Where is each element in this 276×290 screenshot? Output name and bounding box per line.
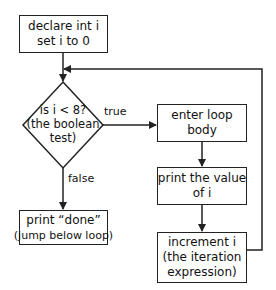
- increment-line1: increment i: [168, 235, 236, 250]
- decision-text: is i < 8? (the boolean test): [23, 103, 103, 145]
- body-line1: enter loop: [171, 108, 232, 123]
- done-line1: print “done”: [26, 213, 100, 228]
- increment-line2: (the iteration: [163, 250, 242, 265]
- test-line1: is i < 8?: [23, 103, 103, 117]
- increment-box: increment i (the iteration expression): [157, 232, 247, 283]
- print-value-line2: of i: [193, 186, 212, 201]
- test-line3: test): [23, 131, 103, 145]
- done-box: print “done” (jump below loop): [19, 210, 108, 245]
- test-line2: (the boolean: [23, 117, 103, 131]
- done-line2: (jump below loop): [14, 228, 113, 243]
- label-true: true: [104, 105, 127, 118]
- print-value-box: print the value of i: [157, 167, 247, 205]
- init-line1: declare int i: [28, 19, 99, 34]
- body-box: enter loop body: [157, 104, 247, 142]
- increment-line3: expression): [167, 265, 236, 280]
- print-value-line1: print the value: [158, 171, 246, 186]
- init-box: declare int i set i to 0: [19, 15, 108, 53]
- init-line2: set i to 0: [37, 34, 90, 49]
- label-false: false: [68, 172, 94, 185]
- body-line2: body: [187, 123, 217, 138]
